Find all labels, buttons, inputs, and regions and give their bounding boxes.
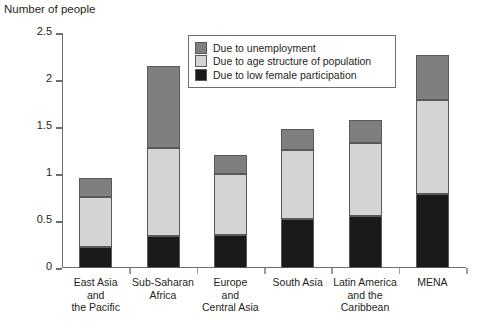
bar-segment-due-to-low-female-participation xyxy=(281,219,314,268)
y-axis-tick-label: 0.5 xyxy=(37,213,52,225)
x-axis-tick-mark xyxy=(197,268,199,274)
bar-segment-due-to-age-structure-of-population xyxy=(416,100,449,194)
x-axis-label-line: Caribbean xyxy=(331,301,398,314)
y-axis-tick-label: 2.5 xyxy=(37,25,52,37)
bar-segment-due-to-age-structure-of-population xyxy=(281,150,314,220)
bar-segment-due-to-unemployment xyxy=(416,55,449,100)
legend-item: Due to age structure of population xyxy=(195,55,389,67)
x-axis-tick-mark xyxy=(399,268,401,274)
bar-segment-due-to-low-female-participation xyxy=(416,194,449,268)
y-axis-tick-label: 1 xyxy=(46,166,52,178)
x-axis-label-line: Latin America xyxy=(331,276,398,289)
legend-item: Due to unemployment xyxy=(195,42,389,54)
bar-segment-due-to-unemployment xyxy=(349,120,382,143)
bar-mena[interactable] xyxy=(416,55,449,268)
y-axis-tick-label: 0 xyxy=(46,260,52,272)
bar-segment-due-to-low-female-participation xyxy=(147,236,180,268)
x-axis-label-line: and xyxy=(197,289,264,302)
bar-segment-due-to-age-structure-of-population xyxy=(79,197,112,248)
legend-label-unemployment: Due to unemployment xyxy=(213,42,316,54)
bar-chart: Number of people 00.511.522.5 East Asiaa… xyxy=(0,0,495,328)
x-axis-label: EuropeandCentral Asia xyxy=(197,276,264,314)
x-axis-label-line: the Pacific xyxy=(62,301,129,314)
x-axis-tick-mark xyxy=(264,268,266,274)
x-axis-label: MENA xyxy=(399,276,466,289)
bar-segment-due-to-low-female-participation xyxy=(349,216,382,268)
bar-segment-due-to-age-structure-of-population xyxy=(147,148,180,236)
bar-segment-due-to-low-female-participation xyxy=(79,247,112,268)
bar-segment-due-to-age-structure-of-population xyxy=(349,143,382,216)
x-axis-label: East Asiaandthe Pacific xyxy=(62,276,129,314)
y-axis-title: Number of people xyxy=(4,3,95,15)
x-axis-label-line: MENA xyxy=(399,276,466,289)
legend-label-age-structure: Due to age structure of population xyxy=(213,55,371,67)
bar-east-asia-and-the-pacific[interactable] xyxy=(79,178,112,268)
bar-segment-due-to-unemployment xyxy=(214,155,247,174)
bar-south-asia[interactable] xyxy=(281,129,314,268)
legend: Due to unemployment Due to age structure… xyxy=(188,35,396,88)
x-axis-label-line: and xyxy=(62,289,129,302)
bar-segment-due-to-unemployment xyxy=(147,66,180,148)
x-axis-tick-mark xyxy=(129,268,131,274)
x-axis-tick-mark xyxy=(331,268,333,274)
x-axis-label: Sub-SaharanAfrica xyxy=(129,276,196,301)
y-axis-tick-label: 2 xyxy=(46,72,52,84)
x-axis-label-line: Sub-Saharan xyxy=(129,276,196,289)
legend-label-female-participation: Due to low female participation xyxy=(213,69,357,81)
bar-segment-due-to-age-structure-of-population xyxy=(214,174,247,235)
x-axis-label-line: Africa xyxy=(129,289,196,302)
legend-swatch-unemployment xyxy=(195,42,207,54)
bar-segment-due-to-low-female-participation xyxy=(214,235,247,268)
bar-segment-due-to-unemployment xyxy=(79,178,112,197)
legend-item: Due to low female participation xyxy=(195,69,389,81)
x-axis-label-line: Central Asia xyxy=(197,301,264,314)
legend-swatch-female-participation xyxy=(195,69,207,81)
y-axis-tick-mark xyxy=(56,268,62,270)
x-axis-label-line: South Asia xyxy=(264,276,331,289)
x-axis-label: Latin Americaand theCaribbean xyxy=(331,276,398,314)
bar-segment-due-to-unemployment xyxy=(281,129,314,150)
bar-sub-saharan-africa[interactable] xyxy=(147,66,180,268)
x-axis-label: South Asia xyxy=(264,276,331,289)
legend-swatch-age-structure xyxy=(195,55,207,67)
x-axis-label-line: East Asia xyxy=(62,276,129,289)
x-axis-label-line: Europe xyxy=(197,276,264,289)
bar-latin-america-and-the-caribbean[interactable] xyxy=(349,120,382,268)
x-axis-label-line: and the xyxy=(331,289,398,302)
y-axis-tick-label: 1.5 xyxy=(37,119,52,131)
x-axis-tick-mark xyxy=(466,268,468,274)
bar-europe-and-central-asia[interactable] xyxy=(214,155,247,268)
